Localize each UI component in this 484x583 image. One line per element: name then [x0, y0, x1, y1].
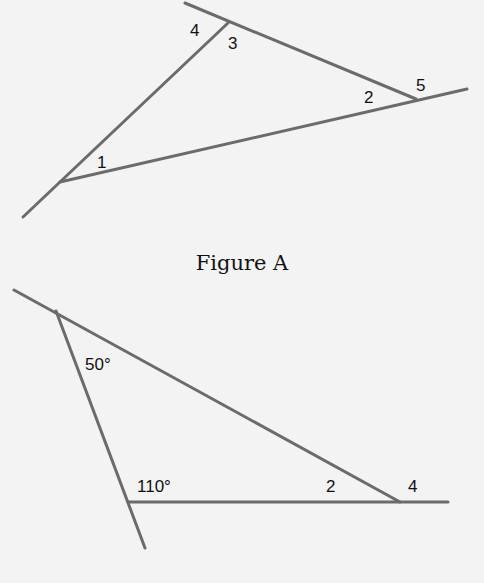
figure-b-triangle: 50° 110° 2 4	[14, 290, 448, 548]
figure-a-side-3-5	[185, 3, 416, 99]
figure-a-angle-3-label: 3	[228, 34, 237, 53]
figure-a-angle-2-label: 2	[364, 88, 373, 107]
figure-a-caption: Figure A	[196, 251, 289, 275]
figure-a-side-1-5	[60, 89, 467, 182]
figure-b-angle-50-label: 50°	[85, 355, 111, 374]
figure-b-side-top-bottom	[56, 311, 145, 548]
figure-a-angle-1-label: 1	[97, 153, 106, 172]
diagram-canvas: 1 2 3 4 5 Figure A 50° 110° 2 4	[0, 0, 484, 583]
figure-b-angle-110-label: 110°	[137, 477, 171, 496]
figure-a-angle-4-label: 4	[190, 21, 199, 40]
figure-a-triangle: 1 2 3 4 5 Figure A	[23, 3, 467, 275]
figure-a-angle-5-label: 5	[416, 76, 425, 95]
figure-a-side-1-3	[23, 23, 228, 217]
figure-b-angle-4-label: 4	[408, 477, 417, 496]
figure-b-angle-2-label: 2	[326, 477, 335, 496]
figure-b-side-top-right	[14, 290, 400, 502]
